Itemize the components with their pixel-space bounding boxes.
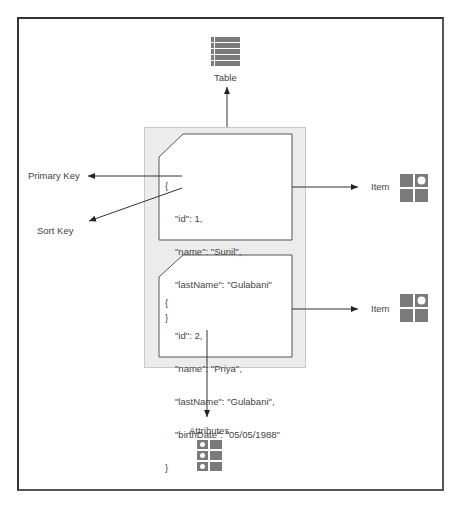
json-line: "lastName": "Gulabani", bbox=[175, 396, 280, 407]
json-line: { bbox=[165, 297, 280, 308]
json-line: "name": "Sunil", bbox=[175, 246, 272, 257]
json-line: { bbox=[165, 180, 272, 191]
sort-key-label: Sort Key bbox=[37, 225, 73, 236]
table-icon bbox=[211, 37, 240, 66]
json-line: "birthDate": "05/05/1988" bbox=[175, 429, 280, 440]
item-icon bbox=[400, 174, 428, 202]
primary-key-label: Primary Key bbox=[28, 170, 80, 181]
item-label-1: Item bbox=[371, 181, 389, 192]
json-line: } bbox=[165, 462, 280, 473]
item-json-2: { "id": 2, "name": "Priya", "lastName": … bbox=[165, 275, 280, 484]
json-line: "id": 1, bbox=[175, 213, 272, 224]
table-label: Table bbox=[214, 72, 237, 83]
json-line: "name": "Priya", bbox=[175, 363, 280, 374]
json-line: "id": 2, bbox=[175, 330, 280, 341]
item-label-2: Item bbox=[371, 303, 389, 314]
item-icon bbox=[400, 294, 428, 322]
